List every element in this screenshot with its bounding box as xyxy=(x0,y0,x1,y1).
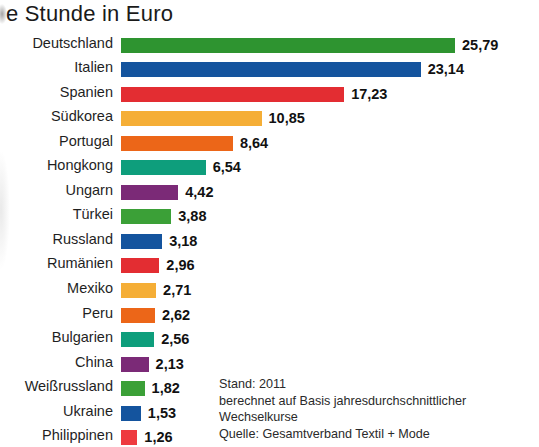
bar-value-label: 1,82 xyxy=(152,379,180,398)
category-label: Bulgarien xyxy=(0,328,113,347)
bar xyxy=(121,430,137,445)
bar xyxy=(121,381,145,396)
category-label: Weißrussland xyxy=(0,377,113,396)
bar xyxy=(121,283,156,298)
bar xyxy=(121,308,155,323)
bar xyxy=(121,87,344,102)
bar xyxy=(121,406,141,421)
bar-row: Bulgarien2,56 xyxy=(0,328,539,353)
bar-row: Russland3,18 xyxy=(0,230,539,255)
bar-row: Türkei3,88 xyxy=(0,205,539,230)
bar xyxy=(121,185,178,200)
bar-row: Ungarn4,42 xyxy=(0,181,539,206)
bar xyxy=(121,136,233,151)
bar-value-label: 8,64 xyxy=(240,134,268,153)
category-label: Philippinen xyxy=(0,426,113,445)
bar-value-label: 10,85 xyxy=(269,109,305,128)
category-label: China xyxy=(0,353,113,372)
footnote-line-basis: berechnet auf Basis jahresdurchschnittli… xyxy=(219,393,466,410)
footnote-line-wechselkurse: Wechselkurse xyxy=(219,409,466,426)
bar-row: Südkorea10,85 xyxy=(0,107,539,132)
bar-row: Peru2,62 xyxy=(0,304,539,329)
category-label: Hongkong xyxy=(0,156,113,175)
bar-value-label: 17,23 xyxy=(351,85,387,104)
category-label: Türkei xyxy=(0,205,113,224)
category-label: Rumänien xyxy=(0,254,113,273)
category-label: Italien xyxy=(0,58,113,77)
bar-value-label: 2,62 xyxy=(162,306,190,325)
category-label: Mexiko xyxy=(0,279,113,298)
category-label: Deutschland xyxy=(0,34,113,53)
bar xyxy=(121,258,159,273)
bar-row: Mexiko2,71 xyxy=(0,279,539,304)
bar-value-label: 2,13 xyxy=(156,355,184,374)
category-label: Ukraine xyxy=(0,402,113,421)
chart-title: e Stunde in Euro xyxy=(6,1,173,27)
bar-value-label: 2,71 xyxy=(163,281,191,300)
bar xyxy=(121,234,162,249)
bar-value-label: 6,54 xyxy=(213,158,241,177)
bar-value-label: 1,26 xyxy=(144,428,172,447)
bar-value-label: 2,96 xyxy=(166,256,194,275)
category-label: Ungarn xyxy=(0,181,113,200)
category-label: Südkorea xyxy=(0,107,113,126)
footnote-line-quelle: Quelle: Gesamtverband Textil + Mode xyxy=(219,426,466,443)
bar-value-label: 25,79 xyxy=(462,36,498,55)
category-label: Russland xyxy=(0,230,113,249)
category-label: Peru xyxy=(0,304,113,323)
bar-row: Italien23,14 xyxy=(0,58,539,83)
category-label: Spanien xyxy=(0,83,113,102)
bar xyxy=(121,209,171,224)
bar xyxy=(121,62,421,77)
bar-row: Portugal8,64 xyxy=(0,132,539,157)
footnote-block: Stand: 2011 berechnet auf Basis jahresdu… xyxy=(219,376,466,442)
bar-value-label: 4,42 xyxy=(185,183,213,202)
bar-value-label: 3,18 xyxy=(169,232,197,251)
bar-value-label: 3,88 xyxy=(178,207,206,226)
bar xyxy=(121,111,262,126)
bar xyxy=(121,38,455,53)
bar xyxy=(121,160,206,175)
bar xyxy=(121,332,154,347)
bar-row: Hongkong6,54 xyxy=(0,156,539,181)
bar-row: Deutschland25,79 xyxy=(0,34,539,59)
bar-row: China2,13 xyxy=(0,353,539,378)
bar-row: Rumänien2,96 xyxy=(0,254,539,279)
bar-value-label: 1,53 xyxy=(148,404,176,423)
bar xyxy=(121,357,149,372)
footnote-line-stand: Stand: 2011 xyxy=(219,376,466,393)
category-label: Portugal xyxy=(0,132,113,151)
bar-row: Spanien17,23 xyxy=(0,83,539,108)
bar-value-label: 23,14 xyxy=(428,60,464,79)
bar-value-label: 2,56 xyxy=(161,330,189,349)
